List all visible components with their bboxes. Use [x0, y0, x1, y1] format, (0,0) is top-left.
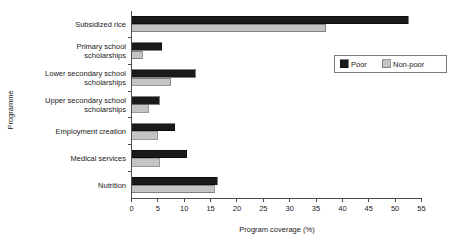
bar-chart-figure: 0510152025303540455055 Subsidized ricePr… — [0, 0, 453, 240]
x-tick-label: 10 — [180, 204, 188, 213]
y-category-label: scholarships — [84, 78, 126, 87]
chart-legend: Poor Non-poor — [334, 55, 446, 72]
y-category-label: Medical services — [71, 154, 127, 163]
x-axis-title: Program coverage (%) — [239, 225, 315, 234]
y-category-label: scholarships — [84, 51, 126, 60]
bar-nonpoor — [132, 24, 326, 31]
y-category-label: Lower secondary school — [45, 69, 126, 78]
bar-nonpoor — [132, 159, 160, 166]
bar-poor — [132, 177, 218, 184]
y-category-label: Subsidized rice — [75, 20, 126, 29]
bar-nonpoor — [132, 105, 149, 112]
y-axis-title: Programme — [6, 90, 15, 129]
y-category-label: Primary school — [76, 42, 126, 51]
legend-label-poor: Poor — [351, 60, 367, 69]
bar-nonpoor — [132, 132, 158, 139]
x-tick-label: 35 — [312, 204, 320, 213]
x-tick-label: 20 — [233, 204, 241, 213]
x-tick-label: 25 — [259, 204, 267, 213]
y-category-label: Employment creation — [56, 127, 126, 136]
swatch-poor-icon — [340, 60, 348, 68]
x-tick-label: 45 — [365, 204, 373, 213]
bar-nonpoor — [132, 185, 215, 192]
bar-poor — [132, 124, 175, 131]
x-tick-label: 40 — [338, 204, 346, 213]
x-tick-label: 15 — [206, 204, 214, 213]
bar-poor — [132, 70, 196, 77]
bar-nonpoor — [132, 51, 143, 58]
y-category-label: scholarships — [84, 105, 126, 114]
legend-label-nonpoor: Non-poor — [393, 60, 425, 69]
chart-background — [0, 0, 453, 240]
swatch-nonpoor-icon — [382, 60, 390, 68]
y-category-label: Nutrition — [98, 181, 126, 190]
bar-poor — [132, 150, 187, 157]
x-tick-label: 55 — [417, 204, 425, 213]
bar-poor — [132, 16, 409, 23]
x-tick-label: 5 — [156, 204, 160, 213]
x-tick-label: 30 — [286, 204, 294, 213]
chart-canvas: 0510152025303540455055 Subsidized ricePr… — [0, 0, 453, 240]
bar-nonpoor — [132, 78, 171, 85]
x-tick-label: 0 — [129, 204, 133, 213]
bar-poor — [132, 97, 160, 104]
y-category-label: Upper secondary school — [45, 96, 126, 105]
bar-poor — [132, 43, 162, 50]
x-tick-label: 50 — [391, 204, 399, 213]
